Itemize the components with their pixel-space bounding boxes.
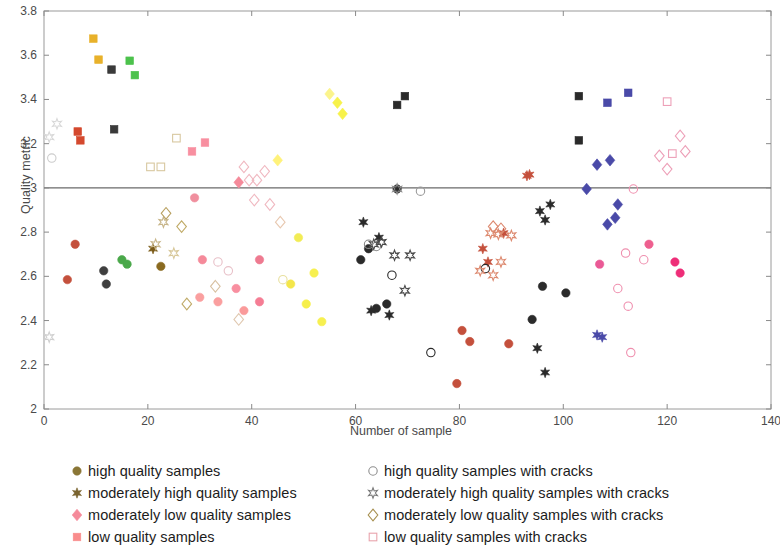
- legend-marker: [362, 504, 384, 526]
- y-tick-label: 2.4: [20, 314, 37, 328]
- data-point: [400, 286, 409, 296]
- data-point: [575, 92, 583, 100]
- data-point: [610, 212, 620, 224]
- data-point: [294, 233, 302, 241]
- data-point: [161, 208, 171, 220]
- data-point: [496, 257, 505, 267]
- legend-item[interactable]: moderately high quality samples with cra…: [362, 482, 669, 504]
- data-point: [48, 154, 56, 162]
- legend-item[interactable]: high quality samples: [66, 460, 297, 482]
- data-point: [359, 217, 368, 227]
- data-point: [214, 298, 222, 306]
- legend-marker: [66, 504, 88, 526]
- series-group: [45, 119, 516, 343]
- data-point: [239, 161, 249, 173]
- data-point: [427, 348, 435, 356]
- data-point: [45, 332, 54, 342]
- data-point: [582, 183, 592, 195]
- data-point: [302, 300, 310, 308]
- legend-item-label: high quality samples: [88, 463, 220, 479]
- legend-item-label: moderately low quality samples: [88, 507, 291, 523]
- data-point: [528, 315, 536, 323]
- x-axis-title: Number of sample: [0, 424, 780, 438]
- legend-marker: [362, 482, 384, 504]
- legend-item[interactable]: high quality samples with cracks: [362, 460, 669, 482]
- data-point: [507, 230, 516, 240]
- star6-open-legend-icon: [365, 485, 381, 501]
- data-point: [541, 367, 550, 377]
- circle-filled-legend-icon: [69, 463, 85, 479]
- square-filled-legend-icon: [69, 529, 85, 545]
- data-point: [505, 340, 513, 348]
- data-point: [604, 99, 612, 107]
- series-group: [63, 185, 684, 388]
- axes-layer: 02040608010012014022.22.42.62.833.23.43.…: [20, 4, 780, 428]
- legend-item[interactable]: moderately high quality samples: [66, 482, 297, 504]
- scatter-chart-figure: 02040608010012014022.22.42.62.833.23.43.…: [0, 0, 780, 553]
- series-group: [48, 154, 648, 357]
- data-point: [595, 260, 603, 268]
- data-point: [592, 159, 602, 171]
- legend-item-label: moderately low quality samples with crac…: [384, 507, 663, 523]
- legend-item-label: low quality samples: [88, 529, 215, 545]
- data-point: [211, 280, 221, 292]
- data-point: [177, 221, 187, 233]
- data-point: [173, 134, 181, 142]
- data-point: [102, 280, 110, 288]
- data-point: [338, 108, 348, 120]
- data-point: [234, 177, 244, 189]
- y-tick-label: 3.6: [20, 48, 37, 62]
- legend-marker: [362, 526, 384, 548]
- series-group: [234, 88, 623, 230]
- data-point: [575, 137, 583, 145]
- data-point: [333, 97, 343, 109]
- legend-marker: [66, 482, 88, 504]
- legend-item[interactable]: low quality samples: [66, 526, 297, 548]
- data-point: [108, 66, 116, 74]
- data-point: [77, 137, 85, 145]
- data-point: [662, 163, 672, 175]
- data-point: [614, 284, 622, 292]
- data-point: [675, 130, 685, 142]
- legend-marker: [362, 460, 384, 482]
- data-point: [224, 267, 232, 275]
- data-point: [214, 258, 222, 266]
- legend-item-label: high quality samples with cracks: [384, 463, 593, 479]
- data-point: [131, 71, 139, 79]
- y-tick-label: 2.6: [20, 269, 37, 283]
- data-point: [401, 92, 409, 100]
- legend-item[interactable]: moderately low quality samples with crac…: [362, 504, 669, 526]
- data-point: [63, 275, 71, 283]
- data-point: [126, 57, 134, 65]
- data-point: [627, 348, 635, 356]
- data-point: [478, 243, 487, 253]
- data-point: [613, 199, 623, 211]
- legend-marker: [66, 526, 88, 548]
- data-point: [196, 293, 204, 301]
- data-point: [605, 154, 615, 166]
- data-point: [655, 150, 665, 162]
- data-point: [310, 269, 318, 277]
- data-point: [232, 284, 240, 292]
- legend-marker: [66, 460, 88, 482]
- data-point: [169, 248, 178, 258]
- data-point: [357, 256, 365, 264]
- data-point: [318, 317, 326, 325]
- legend-item[interactable]: low quality samples with cracks: [362, 526, 669, 548]
- data-point: [669, 150, 677, 158]
- data-point: [279, 275, 287, 283]
- data-point: [541, 215, 550, 225]
- data-point: [533, 343, 542, 353]
- data-point: [198, 256, 206, 264]
- data-point: [147, 163, 155, 171]
- data-point: [406, 250, 415, 260]
- legend-item[interactable]: moderately low quality samples: [66, 504, 297, 526]
- data-point: [250, 194, 260, 206]
- data-point: [676, 269, 684, 277]
- data-point: [388, 271, 396, 279]
- data-point: [273, 154, 283, 166]
- diamond-open-legend-icon: [365, 507, 381, 523]
- data-point: [453, 379, 461, 387]
- y-tick-label: 2: [30, 402, 37, 416]
- data-point: [489, 270, 498, 280]
